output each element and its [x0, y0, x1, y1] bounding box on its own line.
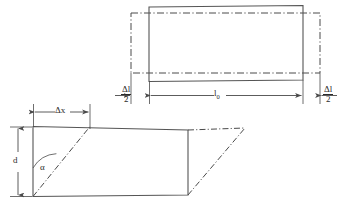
label-delta-l-right-denominator: 2 [323, 95, 333, 104]
label-delta-x: Δx [55, 106, 65, 115]
label-delta-l-over-2-right: Δl 2 [323, 85, 333, 105]
label-delta-l-left-denominator: 2 [121, 95, 131, 104]
original-outline-rect-top [149, 6, 303, 82]
label-shear-angle-alpha: α [40, 163, 45, 172]
shear-diagonal-right [188, 128, 245, 195]
label-depth-d: d [13, 156, 18, 165]
diagram-svg [0, 0, 350, 213]
figure-canvas: Δl 2 l0 Δl 2 Δx d α [0, 0, 350, 213]
label-delta-l-over-2-left: Δl 2 [121, 85, 131, 105]
bottom-diagram-group [10, 104, 245, 197]
original-outline-rect-bottom [33, 127, 188, 197]
label-l-zero: l0 [214, 89, 220, 100]
shear-top-edge [188, 128, 245, 130]
label-l-zero-subscript: 0 [217, 93, 220, 100]
deformed-outline-rect-top [131, 13, 320, 73]
top-diagram-group [115, 6, 337, 105]
